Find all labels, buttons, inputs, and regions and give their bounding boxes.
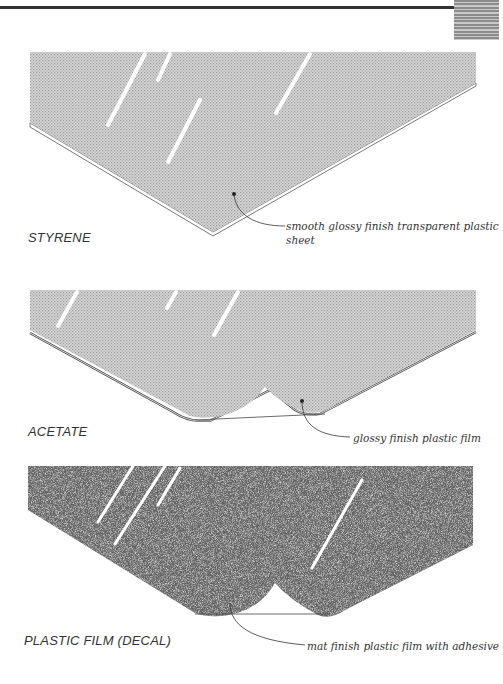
- caption-acetate: glossy finish plastic film: [353, 431, 481, 445]
- figure-decal: PLASTIC FILM (DECAL) mat finish plastic …: [0, 460, 503, 684]
- label-decal: PLASTIC FILM (DECAL): [24, 633, 171, 648]
- figure-acetate: ACETATE glossy finish plastic film: [0, 280, 503, 450]
- label-styrene: STYRENE: [28, 230, 91, 245]
- figure-styrene: STYRENE smooth glossy finish transparent…: [0, 0, 503, 260]
- label-acetate: ACETATE: [28, 424, 87, 439]
- caption-decal: mat finish plastic film with adhesive: [307, 639, 499, 653]
- caption-styrene: smooth glossy finish transparent plastic…: [286, 219, 501, 247]
